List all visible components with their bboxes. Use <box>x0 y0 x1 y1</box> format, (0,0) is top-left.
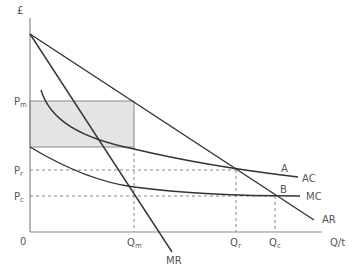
mc-label: MC <box>306 191 322 202</box>
ac-label: AC <box>302 173 316 184</box>
pc-label: Pc <box>14 191 24 204</box>
qr-label: Qr <box>230 237 241 250</box>
qm-label: Qm <box>127 237 142 250</box>
pr-label: Pr <box>14 165 23 178</box>
qc-label: Qc <box>269 237 281 250</box>
pm-label: Pm <box>14 96 27 109</box>
origin-label: 0 <box>20 236 26 247</box>
monopoly-diagram: £ 0 Q/t Pm Pr Pc Qm Qr Qc AC MC AR MR A … <box>0 0 356 273</box>
ar-label: AR <box>322 214 336 225</box>
point-b-label: B <box>280 184 287 195</box>
point-a-label: A <box>281 163 288 174</box>
y-axis-label: £ <box>17 5 23 16</box>
profit-area <box>30 101 134 147</box>
mr-label: MR <box>166 255 182 266</box>
x-axis-label: Q/t <box>330 237 345 248</box>
